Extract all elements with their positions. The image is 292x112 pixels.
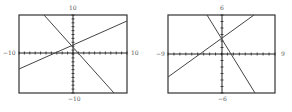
- rising-line: [168, 15, 254, 77]
- xmax-label: 10: [131, 50, 139, 56]
- graph-panel-right: 6 −6 −9 9: [146, 0, 292, 112]
- graph-panel-left: 10 −10 −10 10: [0, 0, 146, 112]
- xmax-label: 9: [281, 51, 285, 57]
- xmin-label: −10: [3, 50, 16, 56]
- falling-line: [44, 15, 114, 93]
- ymax-label: 6: [220, 5, 224, 11]
- axis-ticks: [19, 15, 127, 93]
- ymin-label: −10: [68, 96, 81, 102]
- xmin-label: −9: [156, 51, 165, 57]
- ymax-label: 10: [69, 5, 77, 11]
- ymin-label: −6: [218, 96, 227, 102]
